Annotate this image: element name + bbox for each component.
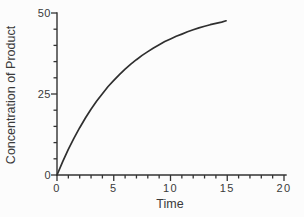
tick-labels: 0510152002550 (38, 7, 292, 194)
product-concentration-curve (57, 21, 226, 175)
x-tick-label: 0 (53, 182, 61, 194)
x-axis-label: Time (156, 197, 183, 211)
x-tick-label: 15 (220, 182, 235, 194)
x-tick-label: 5 (110, 182, 118, 194)
tick-marks (51, 13, 284, 181)
concentration-vs-time-chart: 0510152002550 Time Concentration of Prod… (0, 0, 304, 217)
x-tick-label: 20 (276, 182, 291, 194)
x-tick-label: 10 (163, 182, 178, 194)
y-axis-label: Concentration of Product (4, 25, 18, 164)
axis-lines (57, 13, 286, 175)
y-tick-label: 0 (44, 169, 51, 181)
y-tick-label: 50 (38, 7, 51, 19)
axes (57, 13, 286, 175)
y-tick-label: 25 (38, 88, 51, 100)
chart-canvas: 0510152002550 Time Concentration of Prod… (0, 0, 304, 217)
